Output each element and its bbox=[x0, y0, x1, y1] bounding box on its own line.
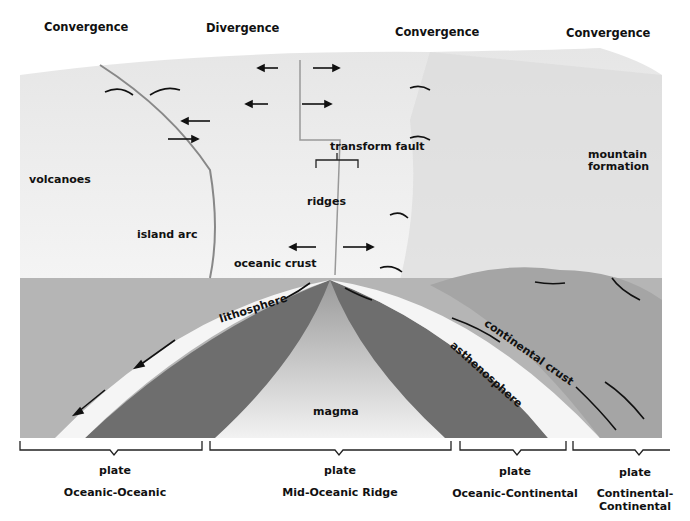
label-volcanoes: volcanoes bbox=[29, 173, 91, 186]
plate-type-oceanic-continental: Oceanic-Continental bbox=[445, 487, 585, 500]
header-convergence-2: Convergence bbox=[395, 25, 479, 39]
label-transform-fault: transform fault bbox=[330, 140, 425, 153]
plate-label-4: plate bbox=[585, 466, 685, 479]
header-divergence: Divergence bbox=[206, 21, 279, 35]
plate-tectonics-illustration bbox=[0, 0, 690, 521]
plate-type-oceanic-oceanic: Oceanic-Oceanic bbox=[40, 486, 190, 499]
plate-type-mid-oceanic-ridge: Mid-Oceanic Ridge bbox=[255, 486, 425, 499]
label-ridges: ridges bbox=[307, 195, 346, 208]
plate-label-3: plate bbox=[460, 465, 570, 478]
label-formation: formation bbox=[588, 160, 649, 173]
label-oceanic-crust: oceanic crust bbox=[234, 257, 317, 270]
header-convergence-1: Convergence bbox=[44, 20, 128, 34]
plate-label-1: plate bbox=[60, 464, 170, 477]
plate-type-continental-1: Continental- bbox=[585, 487, 685, 500]
plate-label-2: plate bbox=[285, 464, 395, 477]
label-magma: magma bbox=[313, 405, 359, 418]
plate-type-continental-2: Continental bbox=[585, 500, 685, 513]
header-convergence-3: Convergence bbox=[566, 26, 650, 40]
label-island-arc: island arc bbox=[137, 228, 197, 241]
